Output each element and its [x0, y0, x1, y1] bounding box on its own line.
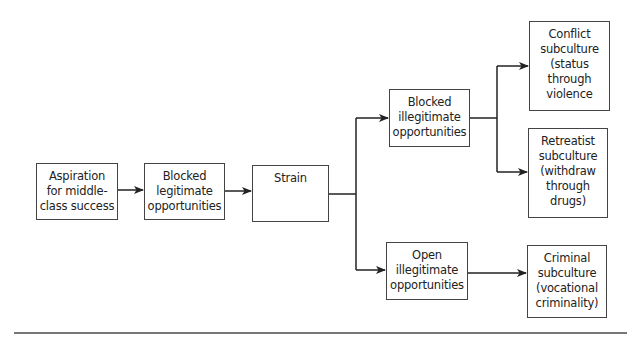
node-label: through [548, 72, 592, 87]
node-label: class success [40, 199, 115, 214]
node-label: opportunities [393, 125, 467, 140]
node-label: (withdraw [540, 164, 596, 179]
node-label: Criminal [544, 251, 590, 266]
bottom-divider [14, 332, 627, 334]
node-blocked-legitimate: Blocked legitimate opportunities [144, 163, 225, 220]
node-open-illegitimate: Open illegitimate opportunities [386, 242, 468, 300]
node-label: Open [412, 248, 442, 263]
node-label: opportunities [148, 199, 222, 214]
node-label: (vocational [536, 281, 598, 296]
node-label: drugs) [550, 194, 586, 209]
node-blocked-illegitimate: Blocked illegitimate opportunities [389, 89, 470, 147]
node-retreatist-subculture: Retreatist subculture (withdraw through … [528, 128, 608, 218]
node-label: illegitimate [396, 263, 458, 278]
node-label: Blocked [163, 169, 207, 184]
node-label: legitimate [156, 184, 212, 199]
node-label: opportunities [390, 278, 464, 293]
node-label: Blocked [408, 95, 452, 110]
node-label: Strain [274, 171, 307, 186]
node-criminal-subculture: Criminal subculture (vocational criminal… [527, 245, 607, 318]
node-label: violence [546, 87, 592, 102]
node-aspiration: Aspiration for middle- class success [36, 163, 118, 220]
node-label: through [546, 179, 590, 194]
node-strain: Strain [252, 165, 329, 222]
node-label: Conflict [548, 27, 590, 42]
node-label: (status [550, 57, 588, 72]
node-label: Aspiration [49, 169, 105, 184]
node-label: subculture [539, 149, 598, 164]
node-label: for middle- [47, 184, 108, 199]
node-label: subculture [540, 42, 599, 57]
node-label: criminality) [536, 296, 599, 311]
node-label: illegitimate [398, 110, 460, 125]
node-conflict-subculture: Conflict subculture (status through viol… [529, 21, 610, 111]
node-label: subculture [538, 266, 597, 281]
node-label: Retreatist [541, 134, 595, 149]
